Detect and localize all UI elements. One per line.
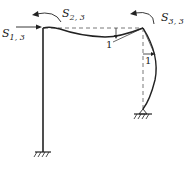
s33-arrowhead-icon bbox=[130, 10, 137, 16]
frame-diagram: S1, 3 S2, 3 S3, 3 1 1 bbox=[0, 0, 184, 170]
s23-moment-arc bbox=[36, 13, 61, 22]
pin-support-triangle-icon bbox=[139, 109, 147, 114]
s23-label: S2, 3 bbox=[62, 8, 85, 22]
deformed-right-column bbox=[143, 28, 156, 109]
s13-label: S1, 3 bbox=[2, 28, 25, 42]
s33-label: S3, 3 bbox=[161, 12, 184, 26]
column-rotation-label: 1 bbox=[145, 56, 151, 66]
column-tangent-line bbox=[143, 28, 155, 55]
s33-moment-arc bbox=[134, 12, 154, 24]
pin-support-hatch-icon bbox=[134, 114, 149, 119]
fixed-support-hatch-icon bbox=[34, 152, 49, 157]
beam-rotation-label: 1 bbox=[106, 40, 112, 50]
frame-drawing bbox=[0, 0, 184, 170]
s23-arrowhead-icon bbox=[32, 11, 39, 17]
deformed-beam bbox=[43, 27, 143, 37]
s13-arrowhead-icon bbox=[36, 25, 42, 30]
beam-rotation-arrowhead-icon bbox=[114, 35, 118, 39]
